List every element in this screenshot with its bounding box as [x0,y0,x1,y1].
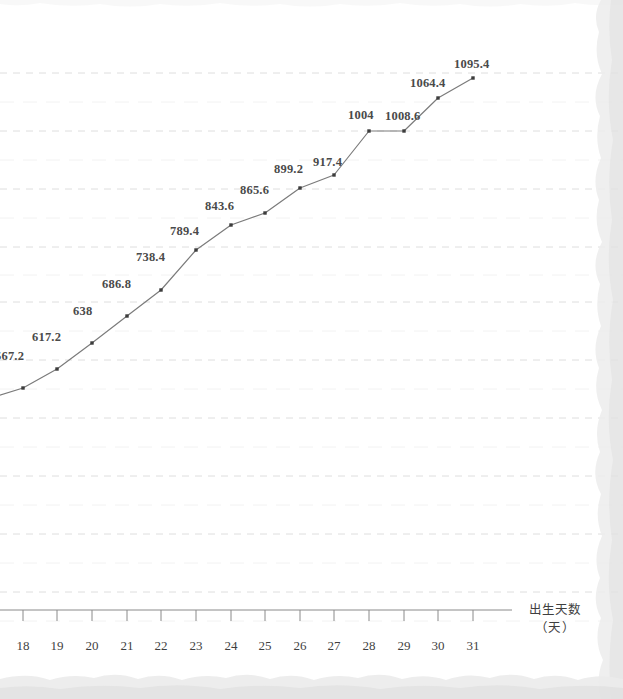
point-label-19: 617.2 [32,330,61,345]
x-tick-label-20: 20 [86,638,99,654]
point-label-30: 1064.4 [410,76,446,91]
chart-root: 567.2 617.2 638 686.8 738.4 789.4 843.6 … [0,0,623,699]
x-tick-label-31: 31 [467,638,480,654]
point-label-20: 638 [73,304,92,319]
point-label-24: 843.6 [205,199,234,214]
x-tick-label-27: 27 [328,638,341,654]
x-tick-label-25: 25 [259,638,272,654]
x-tick-label-18: 18 [17,638,30,654]
x-tick-label-29: 29 [398,638,411,654]
x-tick-label-21: 21 [121,638,134,654]
x-tick-label-28: 28 [363,638,376,654]
gridlines-minor [0,102,623,621]
x-axis-ticks [23,610,473,621]
x-tick-label-24: 24 [225,638,238,654]
data-series-line [0,78,473,399]
point-label-21: 686.8 [102,277,131,292]
point-label-23: 789.4 [170,224,199,239]
point-label-31: 1095.4 [454,57,490,72]
x-tick-label-26: 26 [294,638,307,654]
x-axis-title: 出生天数 （天） [529,601,581,637]
point-label-27: 917.4 [313,155,342,170]
point-label-26: 899.2 [274,162,303,177]
point-label-22: 738.4 [136,250,165,265]
point-label-18: 567.2 [0,349,24,364]
point-label-29: 1008.6 [385,109,421,124]
x-axis-title-line1: 出生天数 [529,602,581,617]
point-label-25: 865.6 [240,183,269,198]
x-tick-label-30: 30 [432,638,445,654]
x-tick-label-19: 19 [51,638,64,654]
x-tick-label-22: 22 [155,638,168,654]
plot-area [0,0,623,699]
point-label-28: 1004 [348,108,374,123]
gridlines-major [0,73,623,592]
x-axis-title-line2: （天） [529,619,581,637]
x-tick-label-23: 23 [190,638,203,654]
